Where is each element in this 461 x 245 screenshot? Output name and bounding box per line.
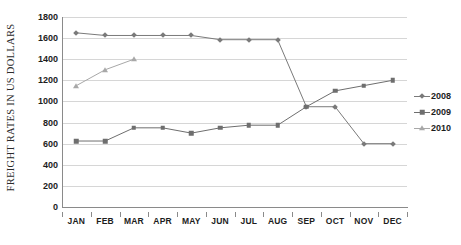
y-axis-title: FREIGHT RATES IN US DOLLARS	[0, 0, 22, 215]
legend-swatch-2009	[414, 107, 430, 117]
x-axis-tick-label: SEP	[298, 216, 316, 226]
data-point-2009-APR	[160, 126, 165, 131]
x-axis-tick-mark	[235, 212, 236, 217]
data-point-2009-FEB	[103, 139, 108, 144]
legend-label-2008: 2008	[431, 91, 451, 101]
x-axis-tick-mark	[292, 212, 293, 217]
triangle-marker-icon	[419, 125, 425, 130]
series-line-2008	[76, 33, 392, 144]
x-axis-tick-mark	[206, 212, 207, 217]
x-axis-tick-mark	[120, 212, 121, 217]
data-point-2009-JUL	[247, 123, 252, 128]
y-axis-tick-label: 1200	[24, 75, 58, 85]
plot-area	[62, 17, 407, 207]
x-axis-tick-label: APR	[153, 216, 172, 226]
y-axis-tick-label: 1600	[24, 33, 58, 43]
data-point-2009-JUN	[218, 126, 223, 131]
x-axis-tick-mark	[91, 212, 92, 217]
y-axis-tick-label: 0	[24, 202, 58, 212]
data-point-2009-AUG	[275, 123, 280, 128]
x-axis-tick-mark	[148, 212, 149, 217]
legend-swatch-2008	[414, 91, 430, 101]
x-axis-tick-label: NOV	[354, 216, 373, 226]
legend-label-2009: 2009	[431, 107, 451, 117]
x-axis-tick-label: OCT	[326, 216, 345, 226]
y-axis-tick-label: 1000	[24, 96, 58, 106]
diamond-marker-icon	[419, 93, 425, 99]
x-axis-tick-label: MAR	[124, 216, 144, 226]
y-axis-line	[62, 17, 63, 208]
x-axis-line	[62, 207, 408, 208]
data-point-2009-NOV	[362, 83, 367, 88]
y-axis-tick-label: 400	[24, 160, 58, 170]
x-axis-tick-label: JUL	[241, 216, 258, 226]
y-axis-tick-labels: 020040060080010001200140016001800	[22, 17, 58, 207]
data-point-2009-OCT	[333, 89, 338, 94]
data-point-2009-SEP	[304, 104, 309, 109]
data-point-2010-MAR	[131, 56, 137, 61]
series-line-2009	[76, 80, 392, 141]
x-axis-tick-mark	[177, 212, 178, 217]
data-point-2010-JAN	[73, 83, 79, 88]
y-axis-tick-label: 800	[24, 118, 58, 128]
data-point-2009-JAN	[74, 139, 79, 144]
x-axis-tick-label: MAY	[182, 216, 201, 226]
y-axis-tick-label: 1400	[24, 54, 58, 64]
x-axis-tick-label: AUG	[268, 216, 288, 226]
freight-rates-line-chart: FREIGHT RATES IN US DOLLARS 020040060080…	[0, 0, 461, 245]
x-axis-tick-label: JUN	[211, 216, 229, 226]
legend-item-2008[interactable]: 2008	[414, 88, 460, 104]
square-marker-icon	[420, 110, 425, 115]
legend-item-2009[interactable]: 2009	[414, 104, 460, 120]
y-axis-tick-label: 600	[24, 139, 58, 149]
series-lines	[62, 17, 407, 207]
x-axis-tick-label: JAN	[68, 216, 86, 226]
y-axis-title-label: FREIGHT RATES IN US DOLLARS	[6, 24, 17, 192]
x-axis-tick-mark	[321, 212, 322, 217]
y-axis-tick-label: 200	[24, 181, 58, 191]
series-line-2010	[76, 59, 134, 85]
y-axis-tick-label: 1800	[24, 12, 58, 22]
data-point-2009-MAR	[132, 126, 137, 131]
chart-legend: 200820092010	[414, 88, 460, 136]
x-axis-tick-mark	[378, 212, 379, 217]
x-axis-tick-mark	[263, 212, 264, 217]
data-point-2009-MAY	[189, 131, 194, 136]
x-axis-tick-mark	[350, 212, 351, 217]
legend-item-2010[interactable]: 2010	[414, 120, 460, 136]
x-axis-tick-label: FEB	[96, 216, 114, 226]
x-axis-tick-mark	[62, 212, 63, 217]
legend-swatch-2010	[414, 123, 430, 133]
x-axis-tick-label: DEC	[383, 216, 402, 226]
data-point-2009-DEC	[390, 78, 395, 83]
legend-label-2010: 2010	[431, 123, 451, 133]
x-axis-tick-labels: JANFEBMARAPRMAYJUNJULAUGSEPOCTNOVDEC	[62, 212, 407, 234]
data-point-2010-FEB	[102, 67, 108, 72]
x-axis-tick-mark	[407, 212, 408, 217]
